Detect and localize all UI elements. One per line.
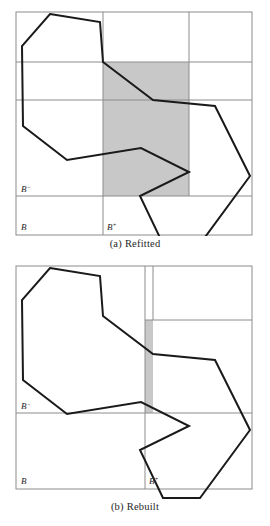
label-b-minus-rebuilt: B− — [21, 401, 31, 411]
shaded-region-rebuilt — [145, 320, 153, 413]
caption-refitted: (a)Refitted — [0, 238, 270, 249]
label-b-rebuilt: B — [21, 476, 27, 486]
diagram-rebuilt: B− B B+ — [0, 258, 270, 500]
subfigure-refitted: B− B B+ (a)Refitted — [0, 0, 270, 258]
diagram-refitted: B− B B+ — [0, 0, 270, 236]
caption-tag-refitted: (a) — [110, 238, 122, 249]
plot-area-refitted: B− B B+ — [0, 0, 270, 236]
caption-rebuilt: (b)Rebuilt — [0, 501, 270, 512]
label-b-refitted: B — [21, 222, 27, 232]
figure-page: B− B B+ (a)Refitted — [0, 0, 270, 526]
outer-frame-rebuilt — [16, 266, 252, 489]
label-b-minus-refitted: B− — [21, 184, 31, 194]
plot-area-rebuilt: B− B B+ — [0, 258, 270, 500]
label-b-plus-refitted: B+ — [107, 222, 117, 232]
subfigure-rebuilt: B− B B+ (b)Rebuilt — [0, 258, 270, 526]
polygon-outline-rebuilt — [22, 268, 250, 498]
caption-text-refitted: Refitted — [125, 238, 160, 249]
caption-text-rebuilt: Rebuilt — [127, 501, 159, 512]
caption-tag-rebuilt: (b) — [111, 501, 124, 512]
shaded-region-refitted — [103, 62, 189, 196]
